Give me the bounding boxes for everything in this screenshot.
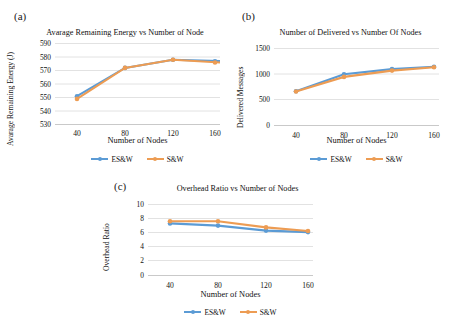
- panel-a-ytick-3: 560: [31, 80, 51, 89]
- legend-item-sw[interactable]: S&W: [240, 308, 277, 317]
- panel-c-title: Overhead Ratio vs Number of Nodes: [145, 184, 330, 193]
- legend-item-esw[interactable]: ES&W: [91, 155, 132, 164]
- legend-marker-esw-icon: [91, 158, 108, 160]
- legend-marker-sw-icon: [366, 158, 383, 160]
- panel-b-ylabel: Delivered Messages: [236, 50, 245, 145]
- panel-c-ytick-1: 8: [128, 214, 144, 223]
- panel-b-gridlines: [274, 49, 439, 126]
- panel-a-title: Avarage Remaining Energy vs Number of No…: [20, 28, 230, 37]
- panel-b-plot: 1500 1000 500 0 40 80 120 160: [274, 48, 439, 126]
- panel-c-xtick-1: 80: [214, 281, 222, 290]
- panel-c-tag: (c): [114, 180, 126, 192]
- panel-b-ytick-3: 0: [248, 121, 270, 130]
- panel-a-series-sw: [75, 58, 220, 102]
- legend-item-esw[interactable]: ES&W: [310, 155, 351, 164]
- panel-c-gridlines: [148, 205, 313, 276]
- panel-c: (c) Overhead Ratio vs Number of Nodes Ov…: [100, 180, 350, 326]
- legend-marker-esw-icon: [310, 158, 327, 160]
- panel-a-ytick-4: 550: [31, 93, 51, 102]
- panel-a-ytick-0: 590: [31, 39, 51, 48]
- panel-c-ytick-5: 0: [128, 271, 144, 280]
- panel-a-ytick-2: 570: [31, 66, 51, 75]
- panel-a-svg: [55, 43, 220, 125]
- panel-b: (b) Number of Delivered vs Number Of Nod…: [232, 8, 459, 168]
- panel-b-title: Number of Delivered vs Number Of Nodes: [248, 28, 453, 37]
- legend-item-sw[interactable]: S&W: [147, 155, 184, 164]
- panel-c-ytick-4: 2: [128, 256, 144, 265]
- legend-label-esw: ES&W: [330, 155, 351, 164]
- panel-b-legend: ES&W S&W: [274, 153, 439, 165]
- legend-label-sw: S&W: [386, 155, 403, 164]
- panel-c-svg: [148, 204, 313, 276]
- panel-c-ytick-2: 6: [128, 228, 144, 237]
- panel-a: (a) Avarage Remaining Energy vs Number o…: [0, 8, 232, 168]
- panel-a-legend: ES&W S&W: [55, 153, 220, 165]
- panel-c-ytick-3: 4: [128, 242, 144, 251]
- panel-c-legend: ES&W S&W: [148, 306, 313, 318]
- legend-marker-sw-icon: [147, 158, 164, 160]
- panel-b-xlabel: Number of Nodes: [274, 136, 439, 145]
- panel-b-tag: (b): [242, 10, 255, 22]
- panel-c-xlabel: Number of Nodes: [148, 290, 313, 299]
- legend-item-sw[interactable]: S&W: [366, 155, 403, 164]
- panel-a-xlabel: Number of Nodes: [55, 136, 220, 145]
- panel-a-ylabel: Avarage Remaining Energy (J): [6, 44, 15, 154]
- panel-b-ytick-2: 500: [248, 95, 270, 104]
- legend-label-sw: S&W: [167, 155, 184, 164]
- panel-a-tag: (a): [14, 10, 26, 22]
- panel-c-xtick-2: 120: [260, 281, 271, 290]
- panel-b-ytick-0: 1500: [248, 44, 270, 53]
- panel-b-ytick-1: 1000: [248, 70, 270, 79]
- panel-b-series-sw: [294, 65, 437, 94]
- legend-item-esw[interactable]: ES&W: [184, 308, 225, 317]
- panel-a-plot: 590 580 570 560 550 540 530 40 80 120 16…: [55, 43, 220, 125]
- legend-label-esw: ES&W: [204, 308, 225, 317]
- panel-c-xtick-0: 40: [166, 281, 174, 290]
- panel-c-ytick-0: 10: [128, 200, 144, 209]
- panel-a-ytick-6: 530: [31, 120, 51, 129]
- legend-label-esw: ES&W: [111, 155, 132, 164]
- panel-c-plot: 10 8 6 4 2 0 40 80 120 160: [148, 204, 313, 276]
- legend-marker-esw-icon: [184, 311, 201, 313]
- legend-label-sw: S&W: [260, 308, 277, 317]
- panel-a-ytick-5: 540: [31, 107, 51, 116]
- panel-a-ytick-1: 580: [31, 53, 51, 62]
- panel-c-xtick-3: 160: [302, 281, 313, 290]
- panel-a-gridlines: [55, 44, 220, 125]
- panel-b-svg: [274, 48, 439, 126]
- legend-marker-sw-icon: [240, 311, 257, 313]
- panel-c-ylabel: Overhead Ratio: [102, 208, 111, 286]
